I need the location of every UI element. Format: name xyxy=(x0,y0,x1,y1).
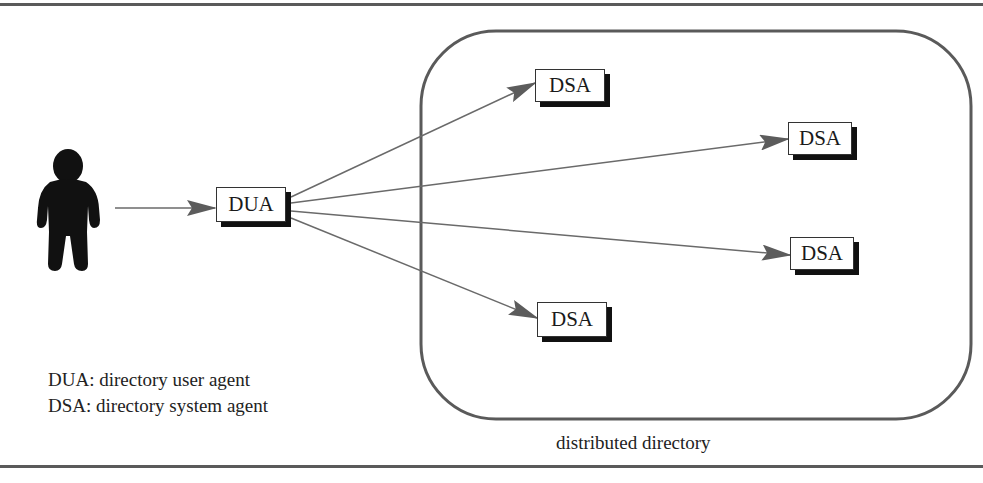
edge-dua-to-dsa-1 xyxy=(291,83,535,197)
legend-item-dua: DUA: directory user agent xyxy=(48,369,250,391)
distributed-directory-region xyxy=(421,31,971,419)
edge-dua-to-dsa-2 xyxy=(291,139,788,203)
person-silhouette-icon xyxy=(37,149,100,271)
dua-node: DUA xyxy=(216,187,286,222)
dsa-node-4: DSA xyxy=(537,302,607,337)
dsa-node-label: DSA xyxy=(551,307,593,332)
dsa-node-label: DSA xyxy=(549,73,591,98)
dua-node-label: DUA xyxy=(228,192,274,217)
edge-dua-to-dsa-4 xyxy=(291,218,537,318)
dsa-node-label: DSA xyxy=(799,126,841,151)
dsa-node-3: DSA xyxy=(790,237,854,270)
dsa-node-1: DSA xyxy=(535,69,605,102)
region-label: distributed directory xyxy=(556,432,711,454)
dsa-node-label: DSA xyxy=(801,241,843,266)
legend-item-dsa: DSA: directory system agent xyxy=(48,395,268,417)
dsa-node-2: DSA xyxy=(788,122,852,155)
